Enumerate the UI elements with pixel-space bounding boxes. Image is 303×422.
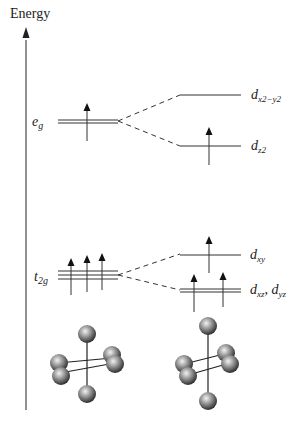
eg-label: eg <box>32 114 43 131</box>
spin-up-arrow-icon <box>99 253 106 261</box>
energy-axis: Energy <box>10 6 50 410</box>
spin-up-arrow-icon <box>206 236 213 244</box>
dxz-dyz-level: dxz, dyz <box>180 272 286 312</box>
eg-level: eg <box>32 103 118 141</box>
t2g-splitting-connectors <box>118 254 180 290</box>
t2g-label: t2g <box>34 269 48 286</box>
dx2y2-label: dx2−y2 <box>251 87 282 104</box>
dxy-level: dxy <box>180 236 265 273</box>
dz2-level: dz2 <box>180 127 267 165</box>
axis-label: Energy <box>10 6 50 21</box>
dxy-label: dxy <box>250 247 265 264</box>
spin-up-arrow-icon <box>191 274 198 282</box>
spin-up-arrow-icon <box>84 103 91 111</box>
t2g-level: t2g <box>34 253 118 295</box>
energy-level-diagram: Energy eg dx2−y2 dz2 <box>0 0 303 422</box>
spin-up-arrow-icon <box>84 255 91 263</box>
dz2-label: dz2 <box>251 138 267 155</box>
spin-up-arrow-icon <box>68 258 75 266</box>
axis-arrowhead-icon <box>23 27 30 38</box>
dxz-dyz-label: dxz, dyz <box>250 282 286 299</box>
spin-up-arrow-icon <box>206 127 213 135</box>
spin-up-arrow-icon <box>220 272 227 280</box>
eg-splitting-connectors <box>118 95 180 146</box>
octahedral-molecule-icon <box>50 325 124 403</box>
elongated-octahedral-molecule-icon <box>175 317 239 410</box>
dx2y2-level: dx2−y2 <box>180 87 282 104</box>
